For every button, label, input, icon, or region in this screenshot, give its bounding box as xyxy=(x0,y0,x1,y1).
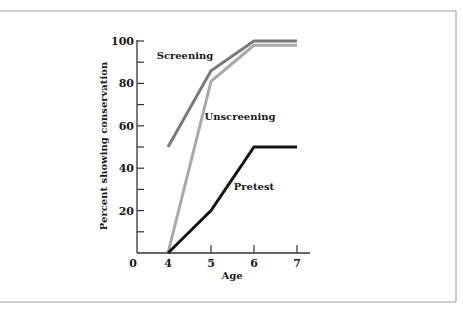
series-lines xyxy=(168,41,297,253)
figure-frame: 204060801004567 ScreeningUnscreeningPret… xyxy=(0,0,463,314)
line-chart: 204060801004567 ScreeningUnscreeningPret… xyxy=(0,0,463,314)
y-tick-label: 60 xyxy=(119,120,135,133)
x-tick-label: 4 xyxy=(164,257,172,270)
y-tick-label: 20 xyxy=(119,205,135,218)
y-tick-label: 40 xyxy=(119,162,135,175)
series-line-pretest xyxy=(168,147,297,253)
x-tick-label: 6 xyxy=(250,257,258,270)
series-label-unscreening: Unscreening xyxy=(204,111,275,122)
y-tick-label: 100 xyxy=(111,35,134,48)
origin-label: 0 xyxy=(129,257,137,270)
y-axis-title: Percent showing conservation xyxy=(98,61,109,230)
series-labels: ScreeningUnscreeningPretest xyxy=(157,50,276,192)
series-label-pretest: Pretest xyxy=(234,181,275,192)
x-axis-title: Age xyxy=(220,270,242,281)
x-tick-label: 7 xyxy=(293,257,301,270)
series-label-screening: Screening xyxy=(157,50,214,61)
series-line-unscreening xyxy=(168,45,297,253)
x-tick-label: 5 xyxy=(207,257,215,270)
y-tick-label: 80 xyxy=(119,77,135,90)
